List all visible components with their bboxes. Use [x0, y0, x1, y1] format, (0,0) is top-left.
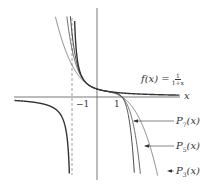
p3-label-arg: (x)	[187, 165, 200, 176]
f-label-lhs: f(x) =	[141, 73, 170, 84]
x-axis-label: x	[184, 91, 190, 101]
tick-label-1: 1	[114, 100, 120, 109]
p3-label: P3(x)	[176, 166, 200, 178]
p7-label-main: P	[176, 115, 183, 126]
curve-f-left-branch	[15, 100, 70, 173]
p7-label-arg: (x)	[187, 115, 200, 126]
p5-label-arg: (x)	[187, 140, 200, 151]
p7-label: P7(x)	[176, 116, 200, 128]
p7-arrowhead-icon	[133, 119, 138, 122]
f-fraction: 11+x	[172, 73, 184, 86]
p3-label-main: P	[176, 165, 183, 176]
p3-arrowhead-icon	[167, 169, 172, 172]
p5-label-main: P	[176, 140, 183, 151]
p5-arrowhead-icon	[144, 144, 149, 147]
curve-p7	[70, 16, 134, 172]
tick-label-neg1: −1	[76, 100, 89, 109]
f-fraction-denominator: 1+x	[172, 80, 184, 86]
p5-label: P5(x)	[176, 141, 200, 153]
f-label: f(x) =11+x	[141, 73, 184, 86]
curve-p5	[67, 16, 140, 173]
